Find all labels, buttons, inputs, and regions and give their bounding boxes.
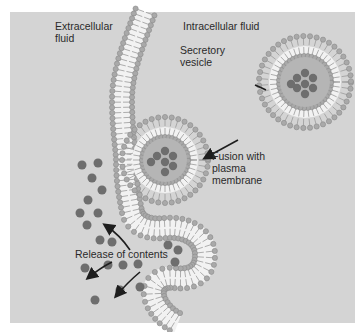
release-of-contents-label: Release of contents [75, 248, 168, 260]
content-particle [81, 264, 90, 273]
content-particle [88, 174, 97, 183]
fusing-vesicle [119, 114, 210, 205]
content-particle [83, 221, 92, 230]
content-particle [84, 196, 93, 205]
content-particle [171, 258, 180, 267]
content-particle [98, 186, 107, 195]
content-particle [94, 209, 103, 218]
fusion-label: Fusion with plasma membrane [212, 150, 265, 186]
content-particle [119, 261, 128, 270]
content-particle [96, 236, 105, 245]
content-particle [76, 209, 85, 218]
content-particle [91, 296, 100, 305]
content-particle [94, 159, 103, 168]
content-particle [136, 283, 145, 292]
content-particle [134, 260, 143, 269]
secretory-vesicle [257, 33, 354, 130]
intracellular-fluid-label: Intracellular fluid [183, 20, 259, 32]
content-particle [78, 161, 87, 170]
release-arrow-down [116, 272, 140, 296]
secretory-vesicle-label: Secretory vesicle [180, 44, 225, 68]
content-particle [174, 246, 183, 255]
release-arrow-left [88, 262, 112, 278]
extracellular-fluid-label: Extracellular fluid [55, 20, 113, 44]
content-particle [108, 238, 117, 247]
release-arrow-up [105, 225, 130, 250]
